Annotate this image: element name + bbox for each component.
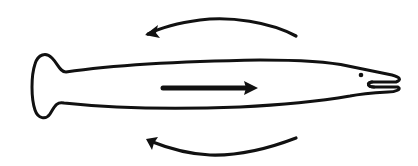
eel-eye bbox=[359, 73, 364, 78]
eel-diagram bbox=[0, 0, 418, 166]
diagram-svg bbox=[0, 0, 418, 166]
